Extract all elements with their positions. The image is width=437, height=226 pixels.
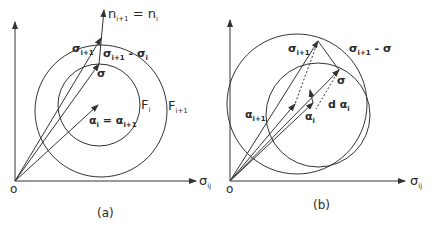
- d-alpha-label: d αi: [328, 98, 350, 113]
- sigma-label: σ: [97, 67, 106, 80]
- alpha-label: αi: [305, 110, 315, 125]
- inner-surface-label: Fi: [141, 97, 150, 114]
- panel-a: o σij ni+1 = ni σi+1 σi+1 - σi σ αi = αi…: [10, 6, 211, 220]
- inner-yield-surface: [266, 63, 370, 167]
- panel-b-caption: (b): [313, 198, 330, 212]
- alpha-label: αi = αi+1: [89, 114, 137, 129]
- stress-increment-label: σi+1 - σ: [349, 42, 392, 57]
- alpha-next-label: αi+1: [245, 108, 266, 123]
- alpha-vector: [15, 105, 98, 181]
- normal-label: ni+1 = ni: [108, 6, 158, 23]
- sigma-next-label: σi+1: [72, 42, 94, 57]
- sigma-vector: [230, 70, 339, 181]
- sigma-next-label: σi+1: [288, 42, 310, 57]
- x-axis-label: σij: [199, 173, 211, 190]
- sigma-vector: [15, 64, 99, 181]
- panel-b: o σij σi+1 σi+1 - σ σ αi+1 αi d αi (b): [226, 20, 422, 212]
- yield-surface-figure: o σij ni+1 = ni σi+1 σi+1 - σi σ αi = αi…: [0, 0, 437, 226]
- panel-a-caption: (a): [97, 206, 114, 220]
- sigma-label: σ: [337, 74, 346, 87]
- origin-label: o: [10, 182, 17, 196]
- outer-surface-label: Fi+1: [168, 98, 188, 115]
- origin-label: o: [226, 182, 233, 196]
- sigma-next-vector: [15, 38, 101, 181]
- x-axis-label: σij: [410, 173, 422, 190]
- stress-increment-label: σi+1 - σi: [103, 47, 148, 62]
